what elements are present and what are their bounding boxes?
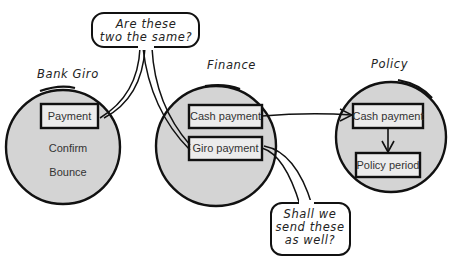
context-label-bank-giro: Bank Giro <box>37 67 99 81</box>
box-label-payment: Payment <box>48 110 91 122</box>
box-finance-cash-payment[interactable]: Cash payment <box>189 105 262 128</box>
context-map-diagram: Bank Giro Payment Confirm Bounce Finance… <box>0 0 453 263</box>
box-finance-giro-payment[interactable]: Giro payment <box>189 137 262 160</box>
callout-line-3: as well? <box>285 233 335 247</box>
context-bank-giro: Bank Giro Payment Confirm Bounce <box>6 67 120 204</box>
box-label-cash-payment: Cash payment <box>353 110 424 122</box>
callout-send-question: Shall we send these as well? <box>262 146 350 255</box>
callout-line-1: Are these <box>115 17 177 31</box>
box-payment[interactable]: Payment <box>41 104 98 128</box>
context-policy: Policy Cash payment Policy period <box>336 57 446 192</box>
context-label-policy: Policy <box>371 57 408 71</box>
box-label-policy-period: Policy period <box>357 159 420 171</box>
context-label-finance: Finance <box>207 58 256 72</box>
callout-line-2: send these <box>275 220 344 234</box>
box-policy-cash-payment[interactable]: Cash payment <box>353 104 424 128</box>
callout-line-2: two the same? <box>100 30 192 44</box>
box-label-giro-payment: Giro payment <box>192 142 258 154</box>
item-bounce: Bounce <box>49 166 86 178</box>
box-label-cash-payment: Cash payment <box>190 110 261 122</box>
box-policy-period[interactable]: Policy period <box>356 153 420 177</box>
item-confirm: Confirm <box>49 142 88 154</box>
callout-line-1: Shall we <box>284 207 337 221</box>
